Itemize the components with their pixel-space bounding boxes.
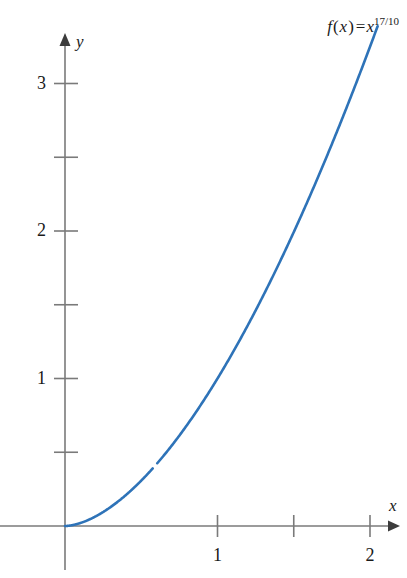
paren-open: ( xyxy=(332,17,340,36)
expression-base: x xyxy=(366,17,374,36)
tick-label: 2 xyxy=(37,221,46,239)
y-axis-arrowhead-icon xyxy=(60,33,71,46)
expression-exponent: 17/10 xyxy=(374,15,399,27)
function-curve-group xyxy=(65,26,378,526)
function-curve-segment-upper xyxy=(157,26,377,463)
plot-canvas xyxy=(0,0,407,578)
x-axis-arrowhead-icon xyxy=(388,521,400,532)
function-curve-segment-lower xyxy=(65,468,153,526)
y-axis-label: y xyxy=(76,33,84,50)
axes-group xyxy=(0,33,400,570)
paren-close: ) xyxy=(347,17,355,36)
tick-label: 2 xyxy=(366,546,375,564)
tick-label: 1 xyxy=(213,546,222,564)
function-plot-figure: 12123 x y f(x)=x17/10 xyxy=(0,0,407,578)
function-argument: x xyxy=(340,17,348,36)
y-axis-ticks xyxy=(54,84,78,453)
tick-label: 1 xyxy=(37,369,46,387)
x-axis-label: x xyxy=(389,497,397,514)
tick-label: 3 xyxy=(37,74,46,92)
equals-sign: = xyxy=(355,17,367,36)
function-annotation: f(x)=x17/10 xyxy=(327,18,399,35)
